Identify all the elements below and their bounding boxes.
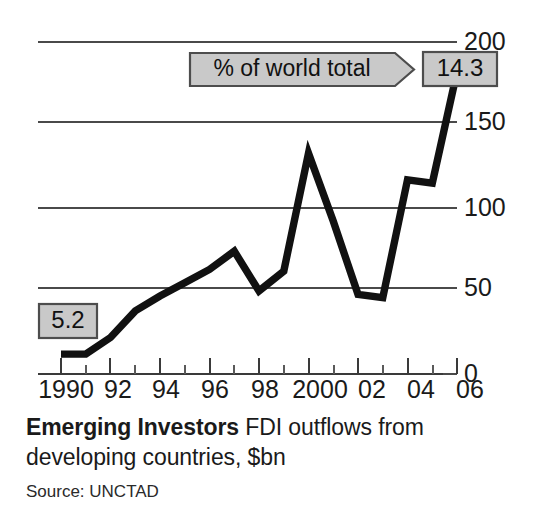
y-tick-label-100: 100 (464, 193, 506, 221)
y-tick-label-150: 150 (464, 107, 506, 135)
start-share-badge: 5.2 (39, 304, 97, 338)
x-axis-labels: 1990 92 94 96 98 2000 02 04 06 (38, 375, 484, 400)
x-tick-label-1992: 92 (104, 375, 132, 400)
x-axis-major-ticks (61, 358, 457, 374)
x-tick-label-2006: 06 (456, 375, 484, 400)
callout-label: % of world total (213, 55, 370, 81)
start-badge-value: 5.2 (51, 306, 84, 333)
caption-second-line: developing countries, $bn (26, 442, 526, 472)
x-tick-label-2000: 2000 (292, 375, 348, 400)
chart-source: Source: UNCTAD (26, 482, 159, 502)
end-share-badge: 14.3 (423, 52, 497, 86)
y-tick-label-50: 50 (464, 273, 492, 301)
x-tick-label-1990: 1990 (38, 375, 94, 400)
x-tick-label-1996: 96 (201, 375, 229, 400)
end-badge-value: 14.3 (437, 54, 484, 81)
x-tick-label-2004: 04 (407, 375, 435, 400)
caption-first-line: Emerging Investors FDI outflows from (26, 412, 526, 442)
caption-title: Emerging Investors (26, 414, 239, 440)
x-tick-label-2002: 02 (358, 375, 386, 400)
caption-description: FDI outflows from (245, 414, 424, 440)
x-tick-label-1994: 94 (152, 375, 180, 400)
data-series-line (61, 72, 457, 354)
chart-caption: Emerging Investors FDI outflows from dev… (26, 412, 526, 472)
share-callout: % of world total (190, 53, 414, 86)
y-tick-label-200: 200 (464, 27, 506, 55)
chart-figure: 200 150 100 50 0 (0, 0, 550, 523)
x-tick-label-1998: 98 (251, 375, 279, 400)
chart-plot-area: 200 150 100 50 0 (0, 0, 550, 400)
